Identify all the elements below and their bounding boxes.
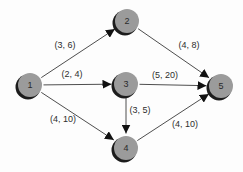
edge-3-to-5 xyxy=(140,84,207,85)
edge-label-3-4: (3, 5) xyxy=(129,105,150,115)
edge-label-1-2: (3, 6) xyxy=(54,40,75,50)
node-label: 5 xyxy=(218,81,223,91)
node-3: 3 xyxy=(112,72,139,99)
edge-label-2-5: (4, 8) xyxy=(178,40,199,50)
node-label: 1 xyxy=(27,80,32,90)
network-diagram: 12345 (3, 6)(2, 4)(4, 10)(4, 8)(5, 20)(3… xyxy=(0,0,243,172)
node-2: 2 xyxy=(113,9,140,36)
node-1: 1 xyxy=(16,73,43,100)
node-label: 4 xyxy=(123,143,128,153)
edge-4-to-5 xyxy=(137,94,209,141)
node-label: 2 xyxy=(124,16,129,26)
edge-label-1-4: (4, 10) xyxy=(50,114,76,124)
edge-label-1-3: (2, 4) xyxy=(61,69,82,79)
node-5: 5 xyxy=(207,74,234,101)
node-label: 3 xyxy=(123,79,128,89)
diagram-svg: 12345 (3, 6)(2, 4)(4, 10)(4, 8)(5, 20)(3… xyxy=(0,0,243,172)
edge-label-4-5: (4, 10) xyxy=(172,119,198,129)
edge-label-3-5: (5, 20) xyxy=(152,70,178,80)
node-4: 4 xyxy=(112,136,139,163)
edge-1-to-3 xyxy=(44,84,112,85)
